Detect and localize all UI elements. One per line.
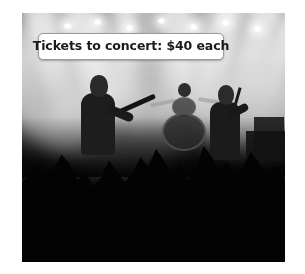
singer-head [218, 85, 234, 105]
guitarist-silhouette [81, 93, 115, 155]
stage-lamp-icon [126, 25, 133, 31]
stage-lamp-icon [254, 26, 261, 32]
drum-kick [162, 113, 206, 151]
stage-lamp-icon [158, 18, 165, 24]
stage-lamp-icon [222, 20, 229, 26]
ticket-price-label: Tickets to concert: $40 each [33, 40, 230, 53]
ticket-price-callout: Tickets to concert: $40 each [38, 33, 224, 60]
page-canvas: Tickets to concert: $40 each [0, 0, 305, 274]
drummer-head [178, 83, 191, 97]
stage-lamp-icon [190, 24, 197, 30]
stage-lamp-icon [64, 23, 71, 29]
guitarist-head [90, 75, 108, 97]
stage-lamp-icon [94, 19, 101, 25]
